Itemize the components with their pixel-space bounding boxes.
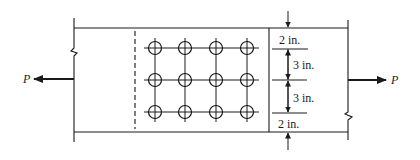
load-label-right: P — [390, 73, 399, 87]
dim-spacing-1: 3 in. — [293, 58, 314, 72]
dim-bottom-edge: 2 in. — [278, 117, 299, 131]
dim-spacing-2: 3 in. — [293, 91, 314, 105]
load-label-left: P — [22, 72, 31, 86]
connection-diagram: P P 2 in. 3 in. 3 in. 2 in. — [0, 0, 420, 160]
dim-top-edge: 2 in. — [279, 33, 300, 47]
